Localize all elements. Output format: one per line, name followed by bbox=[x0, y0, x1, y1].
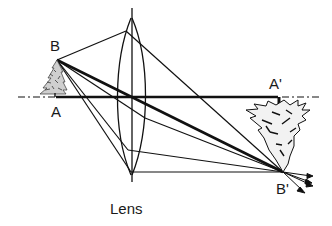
label-b-prime: B' bbox=[276, 181, 289, 196]
label-b: B bbox=[50, 38, 60, 53]
lens-icon bbox=[117, 8, 145, 182]
object-tree-icon bbox=[40, 60, 67, 97]
lens-caption: Lens bbox=[110, 201, 143, 216]
label-a: A bbox=[51, 104, 61, 119]
label-a-prime: A' bbox=[269, 76, 282, 91]
lens-ray-diagram: B A A' B' Lens bbox=[0, 0, 332, 226]
chief-ray bbox=[57, 60, 283, 172]
refracted-rays bbox=[126, 31, 283, 172]
